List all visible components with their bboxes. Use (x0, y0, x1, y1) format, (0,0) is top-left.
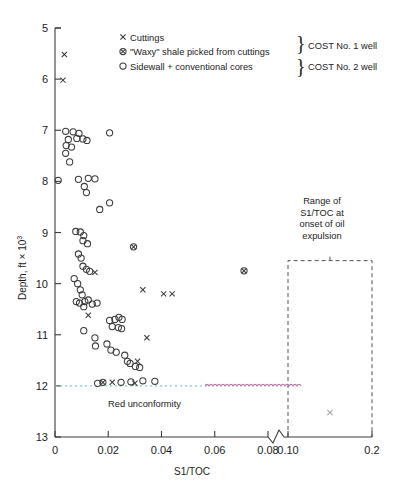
legend-brace-well-2: } (296, 56, 306, 76)
legend-label-waxy-shale: "Waxy" shale picked from cuttings (130, 47, 270, 58)
data-point-s2-31 (75, 281, 81, 287)
chart-figure: 567891011121300.020.040.060.080.100.2 Cu… (0, 0, 394, 491)
data-point-s2-60 (118, 379, 124, 385)
data-point-s2-21 (77, 229, 83, 235)
data-point-s0-3 (86, 313, 91, 318)
data-point-s2-50 (92, 343, 98, 349)
data-point-s2-5 (74, 135, 80, 141)
data-point-s2-10 (63, 150, 69, 156)
data-point-s2-7 (84, 137, 90, 143)
red-unconformity-label: Red unconformity (108, 399, 181, 409)
data-point-s2-63 (152, 378, 158, 384)
range-annotation-line-3: onset of oil (272, 219, 372, 231)
x-tick-label-0.2: 0.2 (364, 444, 379, 456)
data-point-s2-57 (132, 363, 138, 369)
legend-marker-x-icon (120, 34, 125, 39)
data-point-s2-14 (85, 175, 91, 181)
data-point-s2-4 (65, 136, 71, 142)
range-annotation-line-1: Range of (272, 196, 372, 208)
data-point-s2-16 (81, 183, 87, 189)
data-point-s2-17 (83, 190, 89, 196)
y-tick-label-7: 7 (42, 124, 48, 136)
data-point-s2-12 (55, 177, 61, 183)
data-point-s2-53 (113, 349, 119, 355)
x-tick-label-0.02: 0.02 (98, 444, 119, 456)
legend-label-sidewall-cores: Sidewall + conventional cores (130, 62, 253, 73)
legend-well-2-label: COST No. 2 well (308, 62, 377, 73)
range-annotation-line-2: S1/TOC at (272, 208, 372, 220)
data-point-s0-7 (144, 335, 149, 340)
legend-label-cuttings: Cuttings (130, 33, 164, 44)
data-point-s2-24 (84, 241, 90, 247)
data-point-s2-11 (67, 159, 73, 165)
y-tick-label-12: 12 (36, 380, 48, 392)
x-axis-title: S1/TOC (174, 466, 210, 478)
y-tick-label-9: 9 (42, 227, 48, 239)
x-tick-label-0.10: 0.10 (277, 444, 298, 456)
legend-well-1-label: COST No. 1 well (308, 41, 377, 52)
range-box-dashed (288, 261, 372, 437)
red-unconformity-wavy-line (205, 384, 301, 386)
x-axis-break-zigzag (268, 430, 288, 443)
data-point-s2-49 (92, 335, 98, 341)
data-point-s2-15 (92, 176, 98, 182)
data-point-s2-13 (75, 176, 81, 182)
y-axis-title-exponent: 3 (16, 236, 23, 240)
data-point-s2-51 (104, 341, 110, 347)
legend-brace-well-1: } (296, 33, 306, 53)
data-point-s2-48 (81, 328, 87, 334)
x-tick-label-0: 0 (52, 444, 58, 456)
data-point-s0-0 (62, 52, 67, 57)
data-point-s2-18 (97, 206, 103, 212)
data-point-s0-1 (60, 78, 65, 83)
range-annotation: Range of S1/TOC at onset of oil expulsio… (272, 196, 372, 242)
y-axis-title-base: Depth, ft × 10 (17, 240, 28, 300)
x-tick-label-0.06: 0.06 (204, 444, 225, 456)
data-point-s0-9 (110, 380, 115, 385)
data-point-s0-4 (140, 287, 145, 292)
legend-marker-circle-icon (120, 63, 126, 69)
data-point-s0-5 (161, 291, 166, 296)
data-point-s2-6 (80, 136, 86, 142)
data-point-s2-19 (106, 200, 112, 206)
data-point-s0-11 (327, 410, 332, 415)
y-axis-title: Depth, ft × 103 (16, 236, 28, 300)
y-tick-label-11: 11 (37, 329, 48, 341)
x-tick-label-0.08: 0.08 (257, 444, 278, 456)
data-point-s2-3 (106, 130, 112, 136)
range-annotation-line-4: expulsion (272, 231, 372, 243)
data-point-s2-62 (140, 378, 146, 384)
data-point-s2-45 (109, 323, 115, 329)
y-tick-label-13: 13 (36, 431, 48, 443)
x-tick-label-0.04: 0.04 (151, 444, 172, 456)
data-point-s0-6 (170, 291, 175, 296)
y-tick-label-5: 5 (42, 22, 48, 34)
data-point-s2-54 (122, 352, 128, 358)
y-tick-label-10: 10 (36, 278, 48, 290)
y-tick-label-6: 6 (42, 73, 48, 85)
chart-svg: 567891011121300.020.040.060.080.100.2 (0, 0, 394, 491)
data-point-s2-0 (63, 128, 69, 134)
data-point-s1-0 (130, 244, 136, 250)
legend-marker-circle-x-icon (120, 48, 126, 54)
data-point-s1-1 (241, 268, 247, 274)
data-point-s2-1 (70, 129, 76, 135)
data-point-s2-58 (137, 364, 143, 370)
y-tick-label-8: 8 (42, 175, 48, 187)
